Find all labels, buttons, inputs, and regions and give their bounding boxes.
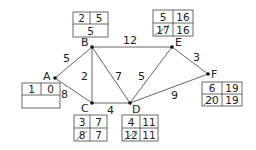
node-label-e: E [175,36,182,49]
label-box-b: 2 5 5 [73,12,108,37]
weight-a-b: 5 [63,52,70,65]
node-a [53,76,57,80]
network-diagram: 5 8 2 7 12 4 5 9 3 A B C D E F 1 0 2 5 5… [0,0,256,150]
box-a-order: 1 [28,83,35,95]
label-box-f: 6 19 20 19 [202,82,242,106]
box-f-working: 19 [225,94,238,106]
label-box-e: 5 16 17 16 [153,10,193,36]
box-f-final: 19 [225,82,238,94]
weight-b-c: 2 [81,70,88,83]
weight-b-e: 12 [123,34,137,47]
box-d-order: 4 [128,116,135,128]
box-b-final: 5 [96,12,103,24]
weight-c-d: 4 [107,104,114,117]
weight-a-c: 8 [61,88,68,101]
label-box-c: 3 7 8 7 [74,115,107,141]
weight-b-d: 7 [115,70,122,83]
box-c-working: 7 [95,129,102,141]
edge-b-d [92,47,130,103]
node-label-d: D [132,103,140,116]
box-e-final: 16 [176,11,190,23]
node-f [206,72,210,76]
weight-e-f: 3 [193,51,200,64]
label-box-d: 4 11 12 11 [122,115,158,141]
node-label-f: F [211,68,217,81]
box-d-final: 11 [142,116,155,128]
node-label-a: A [43,70,51,83]
weight-d-e: 5 [138,70,145,83]
box-e-working: 16 [176,24,190,36]
weight-d-f: 9 [171,89,178,102]
box-f-order: 6 [209,82,216,94]
node-b [90,45,94,49]
box-c-final: 7 [95,116,102,128]
box-d-working: 11 [142,129,155,141]
edge-e-f [172,47,208,74]
box-f-working-crossed: 20 [205,94,218,106]
box-e-order: 5 [160,11,167,23]
label-box-a: 1 0 [22,83,60,108]
box-c-working-crossed: 8 [79,129,86,141]
node-label-c: C [81,102,89,115]
node-e [170,45,174,49]
box-a-final: 0 [47,83,54,95]
box-b-working: 5 [87,25,94,37]
node-label-b: B [81,36,89,49]
box-b-order: 2 [78,12,85,24]
box-c-order: 3 [79,116,86,128]
node-c [90,101,94,105]
edge-d-e [130,47,172,103]
